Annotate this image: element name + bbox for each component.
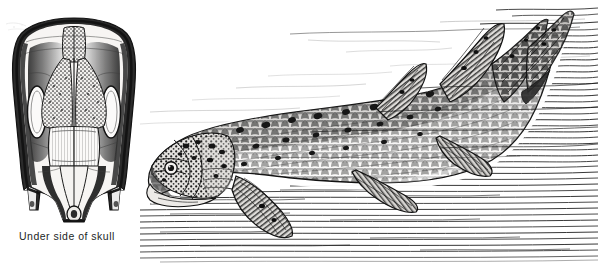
illustration-plate: Under side of skull bbox=[0, 0, 598, 265]
coelacanth-fish-illustration bbox=[140, 0, 598, 265]
skull-caption: Under side of skull bbox=[19, 230, 115, 242]
skull-underside-illustration bbox=[4, 14, 144, 226]
coelacanth-figure bbox=[140, 0, 598, 265]
skull-underside-figure bbox=[4, 14, 144, 226]
